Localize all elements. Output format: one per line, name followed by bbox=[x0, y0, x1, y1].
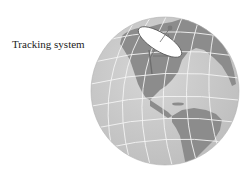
globe-illustration bbox=[0, 0, 250, 173]
dish-feed-horn bbox=[168, 26, 173, 31]
caribbean-island bbox=[172, 102, 184, 105]
